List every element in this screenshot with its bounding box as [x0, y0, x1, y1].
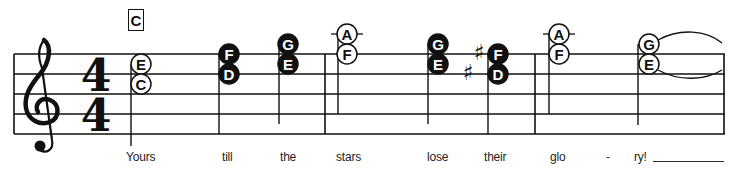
chord-symbol-label: C: [131, 12, 142, 29]
note-letter: F: [342, 46, 351, 63]
note-letter: C: [136, 76, 147, 93]
chord: EC: [131, 54, 151, 146]
lyric-hyphen: -: [606, 150, 610, 164]
note-letter: E: [644, 56, 654, 73]
note-head: A: [337, 24, 357, 44]
ties: [658, 32, 722, 78]
note-head: E: [131, 54, 151, 74]
lyric-syllable: the: [280, 150, 296, 164]
note-letter: E: [283, 56, 293, 73]
note-head: F: [219, 44, 239, 64]
note-head: D: [488, 64, 508, 84]
note-letter: D: [493, 66, 504, 83]
chord: GE: [278, 34, 298, 124]
lyric-syllable: ry!: [634, 150, 647, 164]
note-head: G: [278, 34, 298, 54]
chord-symbol: C: [128, 9, 144, 31]
note-letter: F: [493, 46, 502, 63]
note-head: G: [428, 34, 448, 54]
chord: GE: [428, 34, 448, 124]
note-head: E: [639, 54, 659, 74]
lyric-syllable: lose: [427, 150, 448, 164]
tie-upper: [658, 32, 722, 43]
chord: AF: [543, 24, 575, 114]
note-letter: G: [643, 36, 655, 53]
note-letter: A: [554, 26, 565, 43]
note-letter: D: [224, 66, 235, 83]
lyric-syllable: Yours: [126, 150, 155, 164]
music-staff: 4 4 ECFDGEAFGEFD♯♯AFGE: [0, 0, 734, 173]
sharp-icon: ♯: [474, 40, 485, 65]
sharp-icon: ♯: [463, 60, 474, 85]
note-letter: E: [433, 56, 443, 73]
note-letter: F: [224, 46, 233, 63]
time-signature: 4 4: [81, 50, 112, 141]
note-letter: F: [554, 46, 563, 63]
staff-lines: [14, 54, 725, 134]
lyric-syllable: glo: [550, 150, 565, 164]
treble-clef-icon: [26, 40, 58, 152]
note-head: F: [549, 44, 569, 64]
note-head: F: [488, 44, 508, 64]
note-letter: E: [136, 56, 146, 73]
notes: ECFDGEAFGEFD♯♯AFGE: [131, 24, 659, 146]
lyric-syllable: till: [222, 150, 233, 164]
note-head: D: [219, 64, 239, 84]
note-letter: G: [432, 36, 444, 53]
note-head: F: [337, 44, 357, 64]
note-letter: G: [282, 36, 294, 53]
time-signature-denominator: 4: [81, 90, 112, 141]
lyric-extender-line: [653, 161, 724, 162]
note-letter: A: [342, 26, 353, 43]
note-head: A: [549, 24, 569, 44]
chord: FD: [219, 44, 239, 134]
note-head: E: [428, 54, 448, 74]
note-head: C: [131, 74, 151, 94]
lyric-syllable: stars: [336, 150, 361, 164]
note-head: G: [639, 34, 659, 54]
note-head: E: [278, 54, 298, 74]
lyric-syllable: their: [484, 150, 506, 164]
chord: AF: [331, 24, 363, 114]
chord: GE: [638, 34, 659, 125]
